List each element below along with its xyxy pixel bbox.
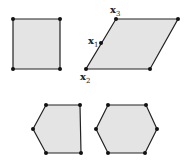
polytope-diagram	[0, 0, 188, 165]
label-x3: x3	[110, 5, 120, 18]
point-x1	[99, 41, 103, 45]
label-x1: x1	[88, 36, 98, 49]
pentagon-shape	[31, 103, 83, 155]
label-x2: x2	[80, 72, 90, 85]
hexagon-shape	[94, 103, 159, 155]
square-shape	[11, 17, 62, 71]
